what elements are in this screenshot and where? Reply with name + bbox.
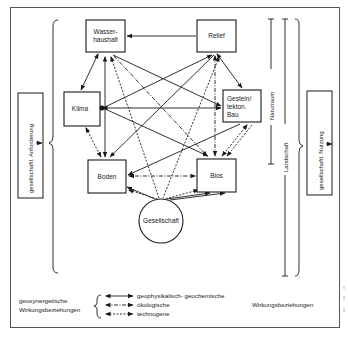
box-gesellschaftl-anforderung: gesellschaftl. Anforderung: [18, 93, 43, 198]
node-gesellschaft: Gesellschaft: [139, 199, 183, 243]
landschaft-label: Landschaft: [283, 142, 289, 172]
klima-hub-dot: [100, 106, 105, 111]
scale-naturraum: Naturraum: [268, 19, 275, 164]
legend-item-geophysical: geophysikalisch- geochemische: [137, 292, 225, 299]
wasserhaushalt-label-1: Wasser-: [94, 28, 118, 35]
bios-label: Bios: [210, 172, 223, 179]
legend: geosynergetische Wirkungsbeziehungen geo…: [19, 292, 314, 318]
box-gesellschaftl-nutzung: gesellschaftl. Nutzung: [307, 91, 332, 195]
klima-label: Klima: [72, 105, 89, 112]
node-wasserhaushalt: Wasser- haushalt: [86, 20, 125, 52]
gestein-label-2: tekton.: [227, 103, 247, 110]
legend-left-line1: geosynergetische: [19, 297, 68, 304]
gesellschaft-label: Gesellschaft: [143, 217, 179, 224]
node-bios: Bios: [197, 159, 236, 192]
legend-brace: [94, 295, 101, 318]
node-boden: Boden: [88, 160, 126, 193]
wasserhaushalt-label-2: haushalt: [93, 36, 118, 43]
legend-item-ecological: ökologische: [137, 301, 170, 308]
nutzung-label: gesellschaftl. Nutzung: [318, 131, 324, 190]
gestein-label-3: Bau: [227, 111, 239, 118]
gestein-label-1: Gestein/: [227, 95, 251, 102]
node-klima: Klima: [64, 92, 100, 126]
right-brace: [295, 19, 303, 276]
anforderung-label: gesellschaftl. Anforderung: [28, 124, 34, 193]
relief-label: Relief: [208, 32, 225, 39]
scale-landschaft: Landschaft: [282, 19, 289, 276]
left-brace: [49, 20, 58, 273]
node-relief: Relief: [197, 20, 236, 52]
legend-right-label: Wirkungsbeziehungen: [252, 301, 314, 308]
boden-label: Boden: [98, 173, 117, 180]
naturraum-label: Naturraum: [269, 92, 275, 120]
node-gestein: Gestein/ tekton. Bau: [223, 90, 261, 122]
legend-item-technogenic: technogene: [137, 310, 170, 317]
geosystem-diagram: Wasser- haushalt Relief Klima Gestein/ t…: [0, 0, 348, 340]
legend-left-line2: Wirkungsbeziehungen: [19, 306, 81, 313]
outer-frame: [11, 8, 340, 328]
